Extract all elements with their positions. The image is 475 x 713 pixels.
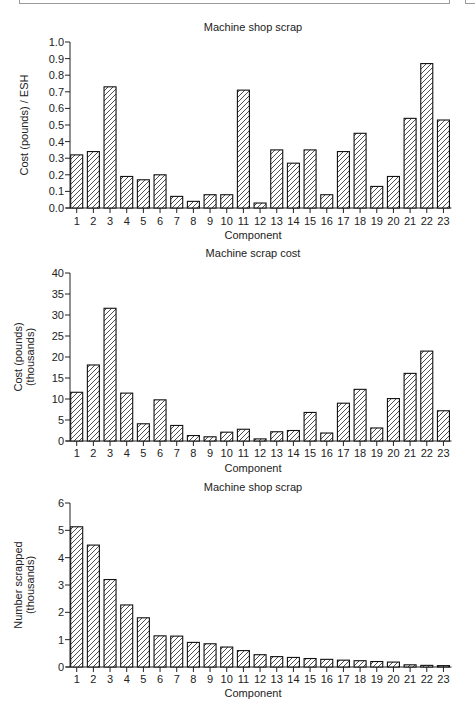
x-tick-label: 8 — [190, 673, 196, 685]
bar-component-21 — [404, 665, 416, 667]
x-tick-label: 14 — [287, 447, 299, 459]
x-tick-label: 3 — [107, 215, 113, 227]
bar-component-15 — [304, 659, 316, 667]
y-tick-label: 0.9 — [49, 53, 64, 65]
bar-component-12 — [254, 439, 266, 441]
y-tick-label: 0.3 — [49, 152, 64, 164]
y-tick-label: 1.0 — [49, 36, 64, 48]
x-tick-label: 22 — [421, 215, 433, 227]
y-tick-label: 35 — [52, 288, 64, 300]
y-tick-label: 0.4 — [49, 136, 64, 148]
bar-component-18 — [354, 661, 366, 667]
bar-component-15 — [304, 412, 316, 441]
x-tick-label: 6 — [157, 673, 163, 685]
x-tick-label: 18 — [354, 673, 366, 685]
x-tick-label: 7 — [174, 215, 180, 227]
bar-component-8 — [187, 201, 199, 208]
bar-component-10 — [221, 195, 233, 208]
y-axis-title-line: (thousands) — [24, 328, 36, 386]
bar-component-2 — [87, 545, 99, 667]
x-tick-label: 12 — [254, 447, 266, 459]
x-tick-label: 23 — [437, 673, 449, 685]
x-tick-label: 6 — [157, 447, 163, 459]
bar-component-22 — [421, 351, 433, 441]
y-axis-title: Cost (pounds)(thousands) — [12, 322, 36, 391]
x-tick-label: 10 — [221, 215, 233, 227]
y-tick-label: 20 — [52, 351, 64, 363]
x-tick-label: 5 — [140, 215, 146, 227]
bar-component-1 — [71, 392, 83, 441]
x-axis-title: Component — [225, 687, 282, 699]
bar-component-16 — [321, 433, 333, 441]
x-tick-label: 21 — [404, 447, 416, 459]
y-tick-label: 0.7 — [49, 86, 64, 98]
bar-component-14 — [287, 431, 299, 442]
bar-component-3 — [104, 580, 116, 667]
bar-component-20 — [387, 176, 399, 208]
y-axis-title-line: Number scrapped — [12, 541, 24, 628]
x-tick-label: 14 — [287, 215, 299, 227]
x-tick-label: 9 — [207, 447, 213, 459]
x-tick-label: 23 — [437, 215, 449, 227]
y-axis-title: Number scrapped(thousands) — [12, 541, 36, 628]
x-tick-label: 19 — [371, 215, 383, 227]
x-tick-label: 13 — [271, 447, 283, 459]
x-tick-label: 20 — [387, 447, 399, 459]
x-tick-label: 10 — [221, 673, 233, 685]
x-tick-label: 4 — [124, 215, 130, 227]
bar-component-8 — [187, 436, 199, 441]
x-tick-label: 11 — [238, 447, 249, 459]
bar-component-2 — [87, 365, 99, 441]
x-tick-label: 13 — [271, 673, 283, 685]
bar-component-19 — [371, 662, 383, 667]
y-tick-label: 15 — [52, 372, 64, 384]
bar-component-6 — [154, 400, 166, 441]
bar-component-17 — [337, 152, 349, 208]
bar-component-5 — [137, 424, 149, 441]
bar-component-10 — [221, 432, 233, 441]
x-tick-label: 2 — [90, 447, 96, 459]
chart-machine-scrap-cost: Machine scrap cost0510152025303540123456… — [12, 247, 451, 474]
x-tick-label: 10 — [221, 447, 233, 459]
y-tick-label: 2 — [58, 606, 64, 618]
bar-component-13 — [271, 150, 283, 208]
bar-component-14 — [287, 657, 299, 667]
x-tick-label: 3 — [107, 447, 113, 459]
y-tick-label: 3 — [58, 579, 64, 591]
x-tick-label: 7 — [174, 447, 180, 459]
chart-title: Machine shop scrap — [204, 481, 302, 493]
y-tick-label: 0.2 — [49, 169, 64, 181]
bar-component-8 — [187, 642, 199, 667]
x-tick-label: 2 — [90, 215, 96, 227]
x-tick-label: 2 — [90, 673, 96, 685]
x-tick-label: 1 — [74, 673, 80, 685]
x-tick-label: 4 — [124, 447, 130, 459]
bar-component-21 — [404, 118, 416, 208]
bar-component-12 — [254, 203, 266, 208]
y-tick-label: 30 — [52, 309, 64, 321]
x-tick-label: 3 — [107, 673, 113, 685]
bar-component-4 — [121, 393, 133, 441]
bar-component-5 — [137, 618, 149, 667]
bar-component-9 — [204, 437, 216, 441]
bar-component-18 — [354, 133, 366, 208]
x-tick-label: 12 — [254, 673, 266, 685]
y-tick-label: 0 — [58, 661, 64, 673]
y-tick-label: 10 — [52, 393, 64, 405]
bar-component-13 — [271, 432, 283, 441]
y-tick-label: 40 — [52, 267, 64, 279]
x-tick-label: 19 — [371, 673, 383, 685]
x-tick-label: 4 — [124, 673, 130, 685]
bar-component-3 — [104, 308, 116, 441]
y-tick-label: 0.5 — [49, 119, 64, 131]
bar-component-17 — [337, 660, 349, 667]
bar-component-21 — [404, 373, 416, 441]
x-tick-label: 16 — [321, 673, 333, 685]
x-tick-label: 18 — [354, 447, 366, 459]
y-tick-label: 25 — [52, 330, 64, 342]
y-tick-label: 1 — [58, 634, 64, 646]
y-tick-label: 5 — [58, 414, 64, 426]
x-tick-label: 22 — [421, 673, 433, 685]
x-tick-label: 1 — [74, 447, 80, 459]
